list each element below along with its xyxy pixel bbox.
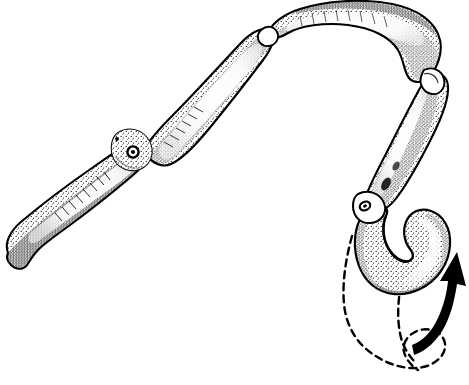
junction-3-4 [421, 68, 445, 94]
junction-1-2 [112, 130, 152, 171]
scientific-illustration-canvas [0, 0, 469, 385]
figure-root: Chain of worm-like body segments in moti… [0, 0, 469, 385]
junction-4-5 [353, 192, 385, 223]
pigment-spot-icon [115, 137, 119, 141]
sucker-icon [127, 146, 138, 157]
junction-2-3 [258, 27, 278, 46]
